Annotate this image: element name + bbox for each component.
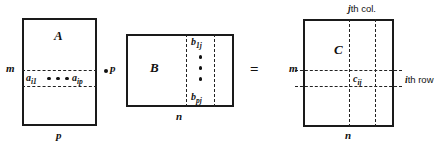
matrix-b-col-band-right-line — [214, 34, 215, 107]
matrix-a-entry-last-subscript: ip — [77, 77, 83, 86]
matrix-multiplication-figure: A m p ai1 aip B p n b1j bpj = C m n cij — [0, 0, 442, 151]
matrix-c-column-annotation-text: th col. — [351, 3, 376, 14]
matrix-b-label: B — [150, 60, 159, 76]
matrix-a-entry-last: aip — [72, 72, 83, 86]
matrix-a-entry-first-subscript: i1 — [31, 77, 37, 86]
matrix-c-entry-subscript: ij — [357, 78, 361, 87]
matrix-b-box — [126, 34, 234, 107]
matrix-a-row-ellipsis-dots — [47, 76, 69, 81]
matrix-c-col-band-left-line — [349, 19, 350, 127]
matrix-c-label: C — [334, 42, 343, 58]
matrix-a-entry-first: ai1 — [26, 72, 37, 86]
matrix-b-cols-label: n — [176, 110, 182, 122]
matrix-c-rows-label: m — [289, 62, 298, 74]
matrix-c-row-annotation-text: th row — [408, 74, 434, 85]
equals-sign: = — [250, 62, 259, 77]
matrix-b-entry-last-subscript: pj — [196, 96, 202, 105]
matrix-b-col-band-left-line — [186, 34, 187, 107]
multiply-dot-icon — [104, 69, 108, 73]
matrix-c-cols-label: n — [345, 129, 351, 141]
matrix-a-cols-label: p — [56, 129, 62, 141]
matrix-b-entry-first-subscript: 1j — [196, 41, 202, 50]
matrix-a-row-band-bottom-line — [22, 86, 97, 87]
matrix-c-row-annotation: ith row — [405, 74, 434, 85]
matrix-c-col-band-right-line — [375, 19, 376, 127]
matrix-b-col-ellipsis-dots — [198, 55, 203, 81]
matrix-b-entry-first: b1j — [191, 36, 202, 50]
matrix-a-row-band-top-line — [22, 70, 97, 71]
matrix-b-entry-last: bpj — [191, 91, 202, 105]
matrix-c-entry: cij — [353, 73, 362, 87]
matrix-c-column-annotation: jth col. — [348, 3, 376, 14]
matrix-a-label: A — [54, 28, 63, 44]
matrix-b-rows-label: p — [110, 62, 116, 74]
matrix-a-rows-label: m — [6, 62, 15, 74]
